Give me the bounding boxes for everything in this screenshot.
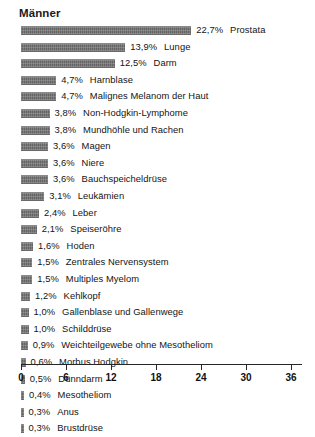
- bar-row: 1,0%Gallenblase und Gallenwege: [0, 307, 315, 324]
- bar-value-label: 1,0%: [34, 306, 56, 317]
- bar-row: 0,9%Weichteilgewebe ohne Mesotheliom: [0, 340, 315, 357]
- bar-row: 4,7%Harnblase: [0, 75, 315, 92]
- bar-label: 1,0%Gallenblase und Gallenwege: [34, 306, 184, 317]
- bar: [21, 209, 39, 218]
- bar-label: 0,9%Weichteilgewebe ohne Mesotheliom: [33, 339, 213, 350]
- x-axis-tick-label: 36: [285, 372, 296, 383]
- bar-row: 3,6%Niere: [0, 158, 315, 175]
- bar-label: 3,6%Bauchspeicheldrüse: [53, 173, 167, 184]
- bar-row: 0,3%Brustdrüse: [0, 423, 315, 437]
- bar-category-label: Multiples Myelom: [66, 273, 139, 284]
- bar-category-label: Bauchspeicheldrüse: [82, 173, 167, 184]
- bar-category-label: Niere: [82, 157, 105, 168]
- bar: [21, 292, 30, 301]
- bar-label: 3,6%Magen: [53, 140, 111, 151]
- bar-label: 2,4%Leber: [44, 207, 97, 218]
- bar: [21, 126, 50, 135]
- bar-value-label: 0,9%: [33, 339, 55, 350]
- bar: [21, 76, 56, 85]
- bar-row: 4,7%Malignes Melanom der Haut: [0, 91, 315, 108]
- bar-value-label: 3,6%: [53, 140, 75, 151]
- bar-category-label: Mundhöhle und Rachen: [83, 124, 184, 135]
- bar-value-label: 1,2%: [35, 290, 57, 301]
- bar-row: 2,4%Leber: [0, 208, 315, 225]
- bar-label: 3,8%Mundhöhle und Rachen: [55, 124, 184, 135]
- bar-value-label: 1,6%: [38, 240, 60, 251]
- bar-category-label: Zentrales Nervensystem: [66, 256, 169, 267]
- bar-row: 12,5%Darm: [0, 58, 315, 75]
- bar-value-label: 4,7%: [61, 74, 83, 85]
- bar: [21, 59, 115, 68]
- bar-label: 2,1%Speiseröhre: [42, 223, 122, 234]
- bar-category-label: Gallenblase und Gallenwege: [62, 306, 183, 317]
- x-axis-tick: [156, 364, 157, 370]
- bar-category-label: Prostata: [230, 24, 265, 35]
- bar-category-label: Leber: [73, 207, 97, 218]
- bar: [21, 142, 48, 151]
- bar-category-label: Kehlkopf: [64, 290, 101, 301]
- bar: [21, 242, 33, 251]
- bar-value-label: 3,1%: [49, 190, 71, 201]
- bar: [21, 258, 32, 267]
- bar-category-label: Non-Hodgkin-Lymphome: [83, 107, 188, 118]
- x-axis-tick: [66, 364, 67, 370]
- bar-value-label: 4,7%: [61, 90, 83, 101]
- x-axis-tick-label: 18: [150, 372, 161, 383]
- bar-label: 1,5%Zentrales Nervensystem: [37, 256, 168, 267]
- bar-category-label: Speiseröhre: [70, 223, 121, 234]
- bar: [21, 92, 56, 101]
- bar: [21, 175, 48, 184]
- bar-value-label: 0,3%: [29, 422, 51, 433]
- bar-label: 12,5%Darm: [120, 57, 177, 68]
- bar-category-label: Malignes Melanom der Haut: [90, 90, 209, 101]
- bar-label: 13,9%Lunge: [130, 41, 190, 52]
- bar-label: 22,7%Prostata: [196, 24, 265, 35]
- bar-value-label: 2,4%: [44, 207, 66, 218]
- bar-value-label: 3,6%: [53, 157, 75, 168]
- bar-value-label: 2,1%: [42, 223, 64, 234]
- bar-category-label: Weichteilgewebe ohne Mesotheliom: [61, 339, 213, 350]
- bar: [21, 192, 44, 201]
- x-axis-tick: [111, 364, 112, 370]
- bar-value-label: 3,8%: [55, 107, 77, 118]
- bar-category-label: Leukämien: [78, 190, 124, 201]
- bar-value-label: 3,8%: [55, 124, 77, 135]
- bar-row: 0,3%Anus: [0, 407, 315, 424]
- x-axis-tick-label: 0: [18, 372, 24, 383]
- bar-category-label: Darm: [154, 57, 177, 68]
- bar-category-label: Anus: [57, 406, 79, 417]
- bar: [21, 308, 29, 317]
- bar-label: 4,7%Malignes Melanom der Haut: [61, 90, 208, 101]
- plot-area: 22,7%Prostata13,9%Lunge12,5%Darm4,7%Harn…: [0, 25, 315, 365]
- bar: [21, 408, 24, 417]
- x-axis-tick: [246, 364, 247, 370]
- bar-row: 1,6%Hoden: [0, 241, 315, 258]
- bar: [21, 275, 32, 284]
- bar-category-label: Brustdrüse: [57, 422, 103, 433]
- bar: [21, 341, 28, 350]
- bar: [21, 325, 29, 334]
- bar-label: 3,1%Leukämien: [49, 190, 124, 201]
- x-axis-line: [21, 364, 302, 365]
- bar-row: 3,8%Mundhöhle und Rachen: [0, 125, 315, 142]
- bar-category-label: Harnblase: [90, 74, 133, 85]
- bar-value-label: 3,6%: [53, 173, 75, 184]
- bar-value-label: 12,5%: [120, 57, 147, 68]
- x-axis-tick-label: 6: [63, 372, 69, 383]
- x-axis-tick: [201, 364, 202, 370]
- bar-value-label: 0,3%: [29, 406, 51, 417]
- bar-label: 1,6%Hoden: [38, 240, 94, 251]
- bar-value-label: 22,7%: [196, 24, 223, 35]
- x-axis: 061218243036: [0, 364, 315, 397]
- bar-label: 1,5%Multiples Myelom: [37, 273, 139, 284]
- chart-title: Männer: [19, 7, 61, 19]
- bar-value-label: 1,0%: [34, 323, 56, 334]
- bar-label: 1,2%Kehlkopf: [35, 290, 100, 301]
- bar: [21, 225, 37, 234]
- bar-value-label: 1,5%: [37, 256, 59, 267]
- bar-row: 1,5%Multiples Myelom: [0, 274, 315, 291]
- bar: [21, 26, 191, 35]
- bar: [21, 159, 48, 168]
- bar: [21, 109, 50, 118]
- bar-category-label: Lunge: [164, 41, 190, 52]
